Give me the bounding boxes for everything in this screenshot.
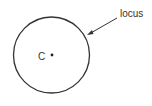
annotation-arrow xyxy=(89,18,117,34)
locus-diagram: C locus xyxy=(0,0,152,106)
center-label: C xyxy=(38,51,45,62)
center-point xyxy=(51,54,54,57)
arrowhead-icon xyxy=(87,30,94,35)
locus-label: locus xyxy=(120,8,143,19)
